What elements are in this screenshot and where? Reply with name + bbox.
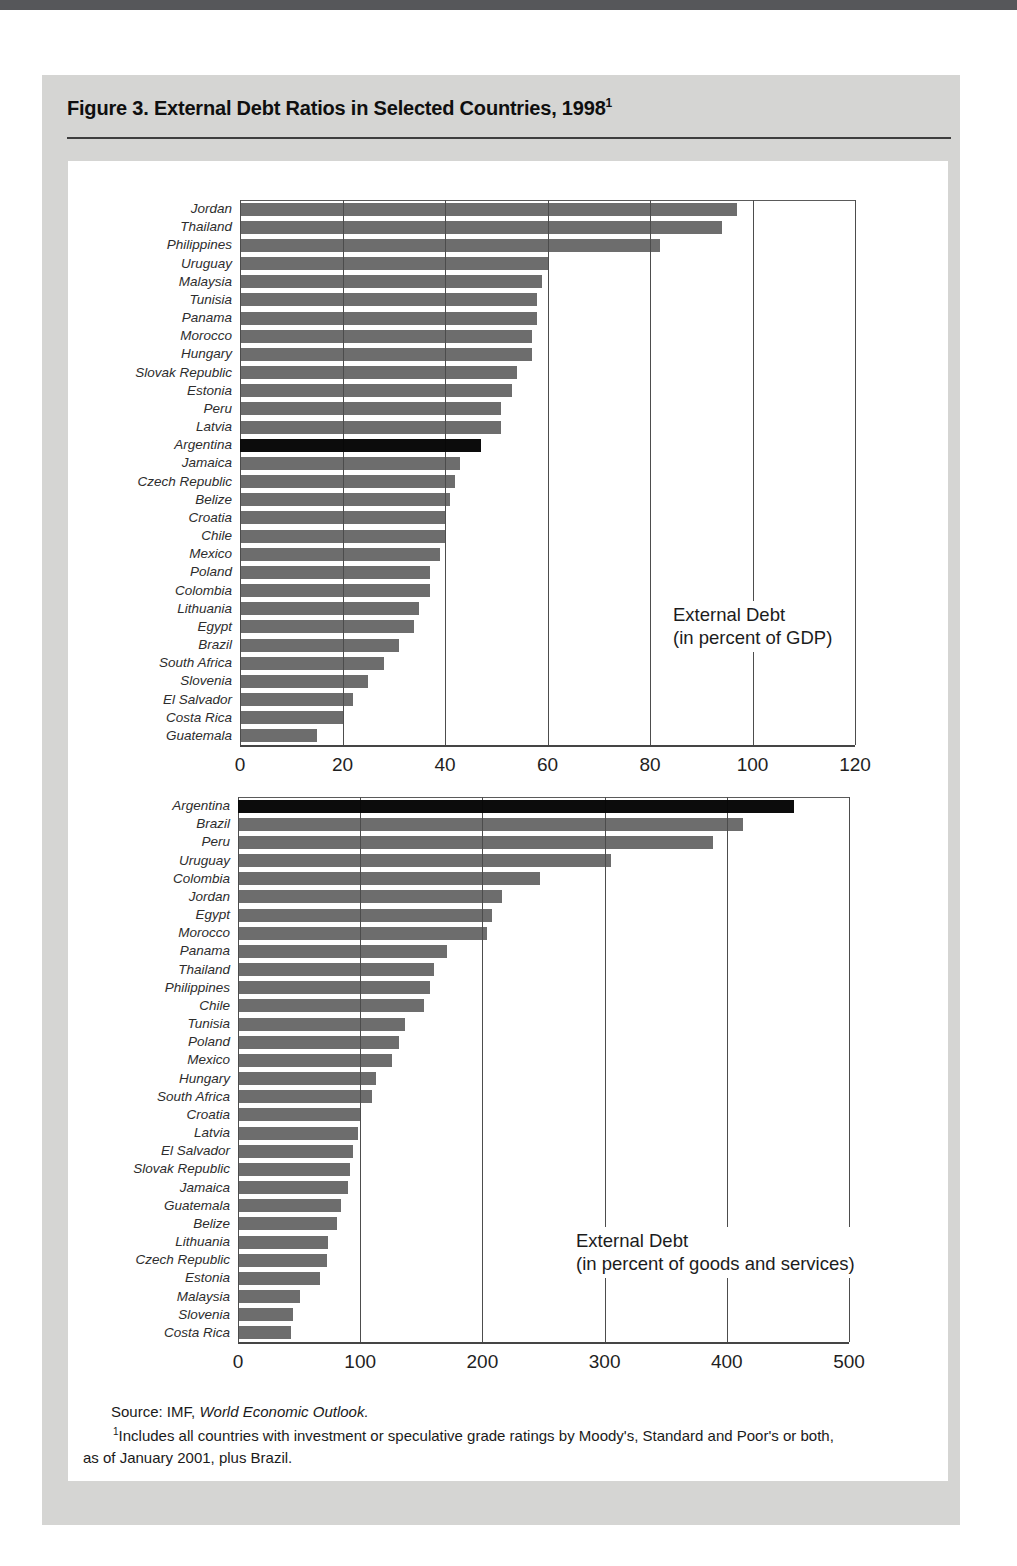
country-label: Latvia [68,1124,230,1142]
country-label: El Salvador [68,691,232,709]
title-footnote-marker: 1 [606,96,612,110]
bar [238,1018,405,1031]
page: Figure 3. External Debt Ratios in Select… [0,0,1017,1566]
x-tick-label: 0 [233,1351,244,1373]
bar [238,1199,341,1212]
footnote-line2: as of January 2001, plus Brazil. [83,1449,292,1466]
plot-top-border [238,797,849,798]
country-label: Poland [68,563,232,581]
x-axis [240,745,855,747]
country-label: Panama [68,309,232,327]
bar [238,818,743,831]
gridline-overlay [548,200,549,745]
bar [238,927,487,940]
bar [238,1054,392,1067]
country-label: Slovak Republic [68,364,232,382]
country-label: Thailand [68,218,232,236]
x-tick-label: 300 [589,1351,621,1373]
gridline-overlay [753,200,754,745]
bar [238,981,430,994]
country-label: Egypt [68,906,230,924]
gridline-overlay [445,200,446,745]
country-label: Slovenia [68,1306,230,1324]
country-label: Brazil [68,636,232,654]
country-label: Thailand [68,961,230,979]
bar [240,239,660,252]
country-label: Mexico [68,1051,230,1069]
bar [238,963,434,976]
country-label: Costa Rica [68,709,232,727]
country-label: South Africa [68,654,232,672]
country-label: Tunisia [68,291,232,309]
country-label: Morocco [68,327,232,345]
bar [240,402,501,415]
bar [240,348,532,361]
x-tick-label: 200 [467,1351,499,1373]
source-note: Source: IMF, World Economic Outlook. [111,1403,369,1420]
country-label: Czech Republic [68,1251,230,1269]
country-label: Jordan [68,200,232,218]
bar [240,475,455,488]
country-label: Jordan [68,888,230,906]
country-label: Guatemala [68,727,232,745]
bar [240,457,460,470]
country-label: Philippines [68,236,232,254]
country-label: Estonia [68,1269,230,1287]
x-tick-label: 100 [344,1351,376,1373]
country-label: Colombia [68,870,230,888]
country-label: Tunisia [68,1015,230,1033]
gridline-overlay [240,200,241,745]
bar [240,366,517,379]
bar [240,584,430,597]
bar [240,711,343,724]
top-stripe [0,0,1017,10]
bar [240,729,317,742]
bar [238,1108,361,1121]
footnote: 1Includes all countries with investment … [113,1426,834,1444]
legend-line2: (in percent of GDP) [673,626,832,649]
country-label: Estonia [68,382,232,400]
gridline-overlay [343,200,344,745]
bar [240,275,542,288]
country-label: South Africa [68,1088,230,1106]
bar [238,999,424,1012]
country-label: Latvia [68,418,232,436]
bar [240,693,353,706]
bar [238,1217,337,1230]
country-label: El Salvador [68,1142,230,1160]
country-label: Czech Republic [68,473,232,491]
bar [238,836,713,849]
country-label: Costa Rica [68,1324,230,1342]
country-label: Malaysia [68,1288,230,1306]
country-label: Slovenia [68,672,232,690]
bar [238,1090,372,1103]
chart-box: Source: IMF, World Economic Outlook. 1In… [68,161,948,1481]
bar [240,657,384,670]
country-label: Mexico [68,545,232,563]
country-label: Jamaica [68,1179,230,1197]
country-label: Malaysia [68,273,232,291]
bar [240,493,450,506]
figure-panel: Figure 3. External Debt Ratios in Select… [42,75,960,1525]
country-label: Brazil [68,815,230,833]
country-label: Guatemala [68,1197,230,1215]
legend-line1: External Debt [673,603,832,626]
x-tick-label: 20 [332,754,353,776]
bar [238,854,611,867]
bar [240,548,440,561]
country-label: Chile [68,527,232,545]
bar [238,1308,293,1321]
figure-title: Figure 3. External Debt Ratios in Select… [67,96,612,120]
bar [238,1254,327,1267]
x-axis [238,1342,849,1344]
bar [240,566,430,579]
bar [240,675,368,688]
bar [238,1236,328,1249]
country-label: Uruguay [68,852,230,870]
gridline-overlay [855,200,856,745]
source-prefix: Source: IMF, [111,1403,195,1420]
bar [238,872,540,885]
country-label: Belize [68,491,232,509]
bar [240,257,548,270]
country-label: Panama [68,942,230,960]
